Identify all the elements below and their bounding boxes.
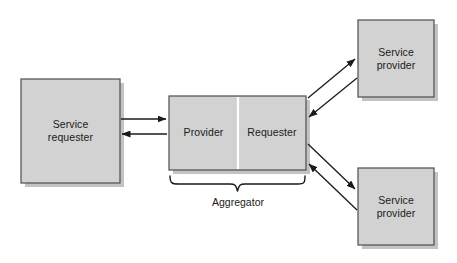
node-boxes <box>21 20 434 245</box>
diagram-canvas: Service requester Provider Requester Ser… <box>0 0 457 263</box>
box-service-provider-top[interactable] <box>358 20 434 97</box>
diagram-svg <box>0 0 457 263</box>
aggregator-brace <box>170 176 305 191</box>
box-service-requester[interactable] <box>21 79 120 183</box>
arrow-provider-top-to-requester <box>309 78 357 117</box>
arrow-provider-bottom-to-requester <box>309 164 357 210</box>
arrow-requester-to-provider-bottom <box>308 144 355 189</box>
arrow-requester-to-provider-top <box>308 59 355 98</box>
box-service-provider-bottom[interactable] <box>358 168 434 245</box>
label-aggregator: Aggregator <box>187 196 289 208</box>
